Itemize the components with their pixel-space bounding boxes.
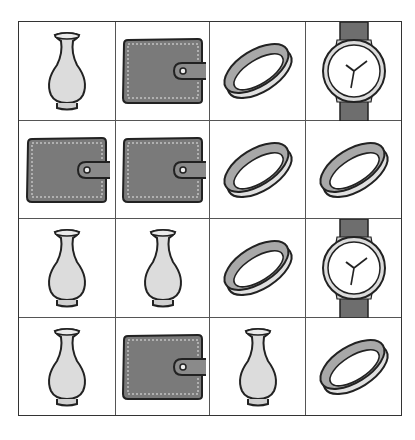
- bracelet-icon: [314, 135, 394, 205]
- grid-cell-bracelet: [306, 121, 401, 219]
- grid-cell-wallet: [116, 22, 210, 121]
- grid-cell-watch: [306, 22, 401, 121]
- bracelet-icon: [218, 36, 298, 106]
- grid-cell-vase: [19, 219, 116, 318]
- grid-cell-bracelet: [210, 121, 306, 219]
- grid-cell-bracelet: [306, 318, 401, 415]
- grid-cell-watch: [306, 219, 401, 318]
- wallet-icon: [118, 332, 208, 402]
- vase-icon: [133, 226, 193, 310]
- grid-cell-wallet: [116, 318, 210, 415]
- bracelet-icon: [218, 233, 298, 303]
- vase-icon: [37, 226, 97, 310]
- grid-cell-vase: [116, 219, 210, 318]
- grid-cell-wallet: [116, 121, 210, 219]
- grid-cell-vase: [19, 22, 116, 121]
- vase-icon: [228, 325, 288, 409]
- item-grid: [18, 21, 402, 416]
- grid-cell-bracelet: [210, 22, 306, 121]
- grid-cell-vase: [19, 318, 116, 415]
- vase-icon: [37, 325, 97, 409]
- vase-icon: [37, 29, 97, 113]
- watch-icon: [321, 219, 387, 318]
- wallet-icon: [118, 135, 208, 205]
- wallet-icon: [118, 36, 208, 106]
- bracelet-icon: [218, 135, 298, 205]
- wallet-icon: [22, 135, 112, 205]
- grid-cell-vase: [210, 318, 306, 415]
- grid-cell-wallet: [19, 121, 116, 219]
- grid-cell-bracelet: [210, 219, 306, 318]
- bracelet-icon: [314, 332, 394, 402]
- watch-icon: [321, 22, 387, 121]
